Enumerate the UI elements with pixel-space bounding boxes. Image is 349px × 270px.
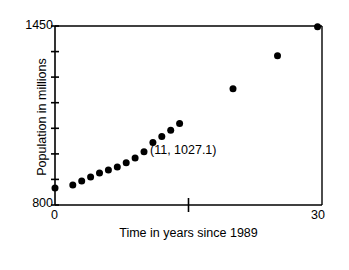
data-point-marker — [230, 85, 237, 92]
x-axis-tick-label-min: 0 — [51, 209, 58, 222]
x-axis-tick-label-max: 30 — [311, 209, 325, 222]
x-axis-title: Time in years since 1989 — [55, 226, 322, 240]
data-point-marker — [52, 184, 59, 191]
data-point-marker — [274, 52, 281, 59]
data-point-marker — [141, 148, 148, 155]
data-point-marker — [105, 167, 112, 174]
data-point-marker — [314, 23, 321, 30]
data-point-marker — [69, 181, 76, 188]
y-axis-tick-label-min: 800 — [32, 197, 53, 210]
axis-spines — [55, 26, 322, 205]
y-axis-tick-label-max: 1450 — [25, 19, 53, 32]
y-axis-title: Population in millions — [35, 37, 49, 197]
data-point-marker — [167, 127, 174, 134]
data-point-annotation: (11, 1027.1) — [150, 143, 216, 157]
data-point-marker — [96, 170, 103, 177]
data-point-marker — [132, 154, 139, 161]
data-point-group — [52, 23, 322, 191]
data-point-marker — [87, 173, 94, 180]
data-point-marker — [176, 120, 183, 127]
data-point-marker — [158, 133, 165, 140]
data-point-marker — [78, 178, 85, 185]
scatter-plot-figure: 1450 800 0 30 Population in millions Tim… — [0, 0, 349, 270]
data-point-marker — [123, 159, 130, 166]
data-point-marker — [114, 164, 121, 171]
